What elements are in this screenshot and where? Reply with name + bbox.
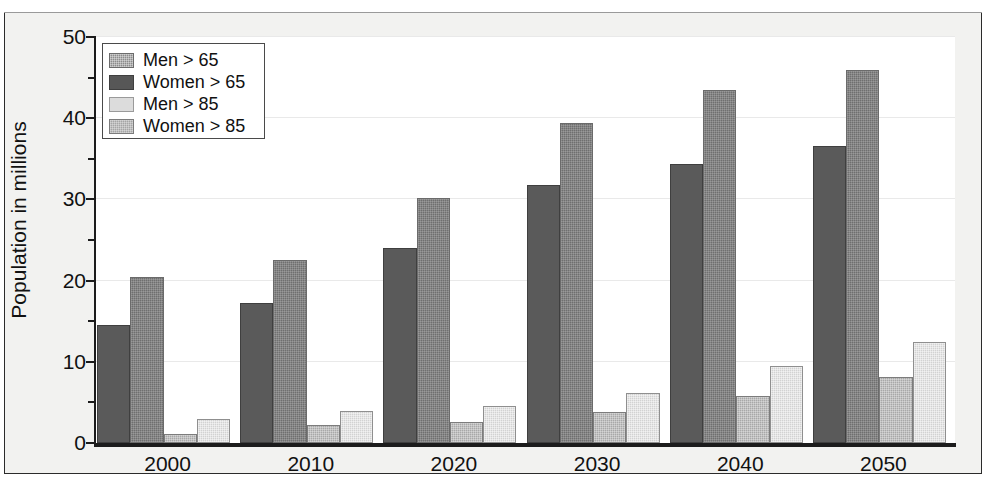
bar[interactable]	[340, 411, 373, 443]
bar[interactable]	[913, 342, 946, 443]
y-tick-label: 40	[40, 107, 86, 128]
legend-item[interactable]: Men > 85	[109, 93, 258, 115]
bar[interactable]	[273, 260, 306, 443]
bar-group	[812, 37, 955, 443]
legend-swatch-icon	[109, 53, 134, 68]
y-tick-label: 30	[40, 188, 86, 209]
bar[interactable]	[240, 303, 273, 443]
chart-legend: Men > 65Women > 65Men > 85Women > 85	[102, 43, 265, 139]
legend-item[interactable]: Men > 65	[109, 49, 258, 71]
figure-root: Population in millions 01020304050 20002…	[0, 0, 988, 487]
bar[interactable]	[560, 123, 593, 443]
y-tick-mark	[86, 361, 95, 363]
y-tick-mark	[86, 280, 95, 282]
bar-group	[526, 37, 669, 443]
x-tick-label: 2050	[812, 452, 955, 482]
legend-label: Women > 65	[143, 73, 245, 91]
bar[interactable]	[197, 419, 230, 443]
bar[interactable]	[593, 412, 626, 443]
bar[interactable]	[383, 248, 416, 443]
y-tick-mark-minor	[88, 401, 95, 403]
bar[interactable]	[770, 366, 803, 443]
bar[interactable]	[846, 70, 879, 443]
bar[interactable]	[527, 185, 560, 443]
legend-label: Men > 85	[143, 95, 219, 113]
bar[interactable]	[813, 146, 846, 443]
legend-swatch-icon	[109, 75, 134, 90]
x-tick-label: 2040	[669, 452, 812, 482]
x-tick-label: 2030	[526, 452, 669, 482]
legend-item[interactable]: Women > 85	[109, 115, 258, 137]
y-tick-label: 50	[40, 26, 86, 47]
legend-label: Women > 85	[143, 117, 245, 135]
bar[interactable]	[483, 406, 516, 443]
bar[interactable]	[130, 277, 163, 443]
bar[interactable]	[670, 164, 703, 443]
bar[interactable]	[703, 90, 736, 443]
legend-swatch-icon	[109, 97, 134, 112]
legend-label: Men > 65	[143, 51, 219, 69]
legend-swatch-icon	[109, 119, 134, 134]
x-axis-line	[94, 443, 956, 447]
x-axis-labels: 200020102020203020402050	[96, 452, 955, 482]
y-tick-label: 10	[40, 351, 86, 372]
y-tick-mark-minor	[88, 320, 95, 322]
bar[interactable]	[626, 393, 659, 443]
bar[interactable]	[450, 422, 483, 443]
y-tick-mark	[86, 36, 95, 38]
bar[interactable]	[164, 434, 197, 443]
bar-group	[669, 37, 812, 443]
bar[interactable]	[879, 377, 912, 443]
y-tick-mark	[86, 117, 95, 119]
x-tick-label: 2010	[239, 452, 382, 482]
legend-item[interactable]: Women > 65	[109, 71, 258, 93]
x-tick-label: 2020	[382, 452, 525, 482]
y-tick-mark-minor	[88, 239, 95, 241]
bar[interactable]	[97, 325, 130, 443]
x-tick-label: 2000	[96, 452, 239, 482]
y-tick-mark	[86, 198, 95, 200]
y-axis-labels: 01020304050	[26, 0, 86, 487]
bar[interactable]	[417, 198, 450, 443]
y-tick-label: 20	[40, 270, 86, 291]
y-tick-mark-minor	[88, 77, 95, 79]
y-tick-label: 0	[40, 432, 86, 453]
y-tick-mark-minor	[88, 158, 95, 160]
bar-group	[382, 37, 525, 443]
bar[interactable]	[736, 396, 769, 443]
bar[interactable]	[307, 425, 340, 443]
